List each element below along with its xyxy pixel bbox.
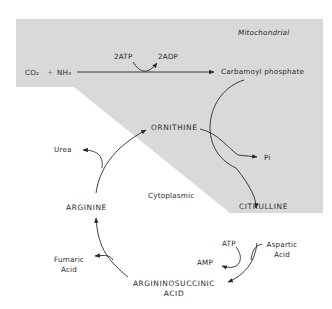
pi-label: Pi bbox=[264, 154, 271, 161]
co2-label: CO₂ bbox=[25, 69, 39, 76]
citrulline-label: CITRULLINE bbox=[239, 203, 288, 210]
2adp-label: 2ADP bbox=[158, 53, 178, 60]
urea-label: Urea bbox=[54, 146, 72, 153]
atp-amp-branch bbox=[222, 247, 240, 267]
urea-branch bbox=[83, 150, 102, 168]
mitochondrial-label: Mitochondrial bbox=[238, 29, 289, 36]
2atp-label: 2ATP bbox=[114, 53, 132, 60]
arginine-label: ARGININE bbox=[66, 204, 107, 211]
plus-sign: + bbox=[47, 69, 53, 76]
carbamoyl-phosphate-label: Carbamoyl phosphate bbox=[221, 68, 304, 75]
arginine-to-ornithine-arrow bbox=[96, 130, 146, 193]
cytoplasmic-label: Cytoplasmic bbox=[148, 192, 194, 199]
aspartic-acid-label: Aspartic Acid bbox=[262, 241, 302, 258]
argininosuccinic-acid-label: ARGININOSUCCINIC ACID bbox=[122, 280, 226, 298]
amp-label: AMP bbox=[197, 259, 213, 266]
urea-cycle-diagram bbox=[0, 0, 332, 309]
citrulline-to-argininosuccinic-arrow bbox=[228, 243, 257, 282]
mitochondrial-region bbox=[16, 19, 323, 213]
atp-label: ATP bbox=[222, 240, 236, 247]
argininosuccinic-to-arginine-arrow bbox=[96, 218, 128, 277]
ornithine-label: ORNITHINE bbox=[151, 124, 198, 131]
aspartic-acid-branch bbox=[251, 244, 262, 260]
fumaric-acid-label: Fumaric Acid bbox=[52, 256, 86, 273]
nh3-label: NH₃ bbox=[57, 69, 71, 76]
